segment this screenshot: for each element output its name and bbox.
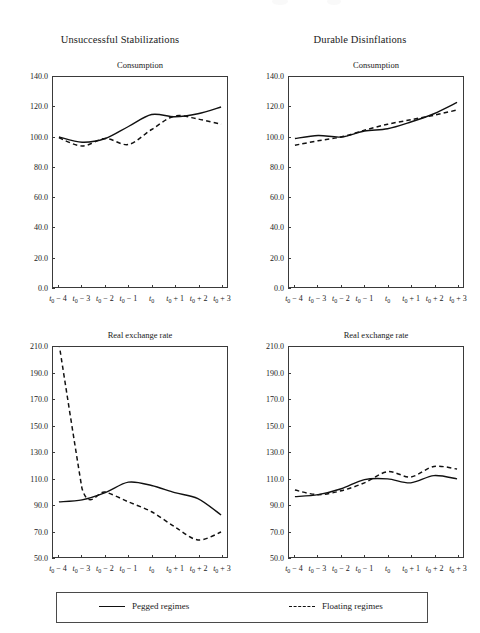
xtick-mark [152, 555, 153, 558]
plot-area-durable-consumption [288, 76, 464, 288]
ytick-mark [52, 452, 55, 453]
plot-area-durable-rer [288, 346, 464, 558]
xtick-label: t0 − 1 [119, 564, 137, 573]
xtick-label: t0 + 1 [166, 564, 184, 573]
xtick-label: t0 − 3 [73, 294, 91, 303]
xtick-mark [364, 285, 365, 288]
xtick-label: t0 − 4 [49, 294, 67, 303]
ytick-label: 140.0 [246, 72, 284, 81]
xtick-mark [294, 285, 295, 288]
xtick-mark [341, 285, 342, 288]
panel-title-durable-consumption: Consumption [288, 60, 464, 70]
ytick-label: 60.0 [10, 193, 48, 202]
xtick-mark [458, 555, 459, 558]
xtick-mark [411, 555, 412, 558]
xtick-mark [128, 285, 129, 288]
ytick-mark [288, 288, 291, 289]
xtick-label: t0 + 1 [402, 294, 420, 303]
ytick-label: 90.0 [10, 501, 48, 510]
lines-unsuccessful-rer [53, 347, 227, 557]
ytick-label: 190.0 [10, 368, 48, 377]
series-floating [295, 466, 457, 494]
ytick-mark [52, 227, 55, 228]
ytick-label: 120.0 [10, 102, 48, 111]
xtick-label: t0 − 2 [332, 294, 350, 303]
legend-entry-floating: Floating regimes [289, 601, 383, 611]
xtick-label: t0 − 2 [96, 294, 114, 303]
ytick-label: 190.0 [246, 368, 284, 377]
xtick-label: t0 + 3 [213, 294, 231, 303]
ytick-mark [52, 137, 55, 138]
legend-label-floating: Floating regimes [322, 601, 383, 611]
xtick-label: t0 − 2 [96, 564, 114, 573]
scan-artifact-right [327, 0, 341, 5]
xtick-label: t0 − 3 [73, 564, 91, 573]
ytick-label: 50.0 [246, 554, 284, 563]
panel-title-unsuccessful-rer: Real exchange rate [52, 330, 228, 340]
xtick-label: t0 + 2 [190, 294, 208, 303]
ytick-label: 70.0 [10, 527, 48, 536]
legend: Pegged regimes Floating regimes [56, 592, 428, 623]
xtick-label: t0 − 1 [119, 294, 137, 303]
ytick-mark [288, 346, 291, 347]
xtick-mark [199, 285, 200, 288]
xtick-mark [222, 555, 223, 558]
xtick-label: t0 [385, 564, 390, 573]
column-title-left: Unsuccessful Stabilizations [0, 34, 240, 45]
ytick-label: 50.0 [10, 554, 48, 563]
xtick-mark [58, 285, 59, 288]
ytick-label: 170.0 [246, 395, 284, 404]
xtick-label: t0 [149, 294, 154, 303]
ytick-label: 20.0 [10, 253, 48, 262]
xtick-mark [175, 555, 176, 558]
figure-canvas: Unsuccessful Stabilizations Durable Disi… [0, 0, 480, 633]
xtick-label: t0 − 4 [49, 564, 67, 573]
xtick-label: t0 − 1 [355, 294, 373, 303]
xtick-label: t0 + 1 [402, 564, 420, 573]
xtick-mark [388, 555, 389, 558]
panel-title-unsuccessful-consumption: Consumption [52, 60, 228, 70]
ytick-label: 130.0 [10, 448, 48, 457]
ytick-label: 130.0 [246, 448, 284, 457]
legend-label-pegged: Pegged regimes [132, 601, 189, 611]
xtick-label: t0 − 1 [355, 564, 373, 573]
ytick-label: 70.0 [246, 527, 284, 536]
ytick-mark [288, 258, 291, 259]
ytick-mark [52, 346, 55, 347]
ytick-label: 150.0 [10, 421, 48, 430]
xtick-label: t0 [385, 294, 390, 303]
ytick-mark [52, 288, 55, 289]
plot-area-unsuccessful-consumption [52, 76, 228, 288]
xtick-mark [128, 555, 129, 558]
ytick-mark [288, 197, 291, 198]
ytick-mark [52, 399, 55, 400]
xtick-label: t0 + 3 [449, 564, 467, 573]
xtick-mark [435, 555, 436, 558]
xtick-label: t0 + 2 [426, 294, 444, 303]
xtick-label: t0 + 3 [213, 564, 231, 573]
ytick-label: 0.0 [10, 284, 48, 293]
ytick-mark [52, 76, 55, 77]
ytick-label: 0.0 [246, 284, 284, 293]
xtick-label: t0 [149, 564, 154, 573]
xtick-label: t0 + 1 [166, 294, 184, 303]
ytick-label: 40.0 [246, 223, 284, 232]
panel-title-durable-rer: Real exchange rate [288, 330, 464, 340]
ytick-mark [52, 373, 55, 374]
xtick-mark [458, 285, 459, 288]
ytick-mark [52, 558, 55, 559]
xtick-mark [388, 285, 389, 288]
xtick-label: t0 − 3 [309, 564, 327, 573]
ytick-mark [52, 106, 55, 107]
ytick-mark [288, 373, 291, 374]
ytick-label: 80.0 [246, 162, 284, 171]
plot-area-unsuccessful-rer [52, 346, 228, 558]
ytick-label: 80.0 [10, 162, 48, 171]
xtick-label: t0 + 3 [449, 294, 467, 303]
xtick-mark [81, 285, 82, 288]
ytick-mark [288, 426, 291, 427]
ytick-label: 140.0 [10, 72, 48, 81]
xtick-mark [81, 555, 82, 558]
xtick-mark [199, 555, 200, 558]
series-floating [295, 110, 457, 145]
